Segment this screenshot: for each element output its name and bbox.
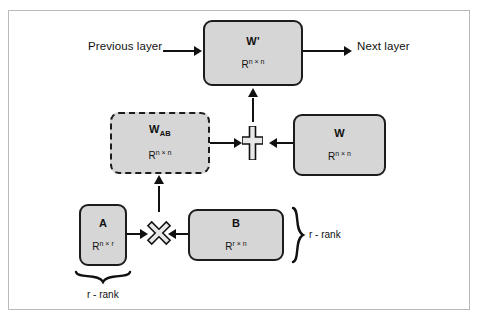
node-a-title: A: [99, 218, 107, 229]
previous-layer-arrowhead-icon: [194, 46, 202, 56]
w-to-plus-arrowhead-icon: [269, 138, 277, 148]
multiply-to-w-ab-arrowhead-icon: [154, 175, 164, 184]
figure-canvas: Previous layer W' Rn × n Next layer WAB …: [0, 0, 478, 323]
b-to-multiply-arrowhead-icon: [168, 229, 176, 239]
node-w-prime-title: W': [246, 36, 259, 47]
node-a-dims: Rn × r: [92, 240, 113, 252]
rank-brace-right-icon: [290, 206, 306, 264]
node-b[interactable]: B Rr × n: [188, 209, 284, 261]
plus-operator-icon: [242, 126, 263, 160]
next-layer-connector: [303, 50, 345, 52]
node-w-ab-title: WAB: [149, 124, 171, 138]
next-layer-arrowhead-icon: [344, 46, 352, 56]
next-layer-label: Next layer: [357, 40, 410, 52]
plus-to-w-prime-connector: [252, 98, 254, 122]
node-w[interactable]: W Rn × n: [293, 114, 386, 176]
node-w-dims: Rn × n: [328, 150, 351, 162]
node-b-title: B: [232, 218, 240, 229]
previous-layer-label: Previous layer: [88, 40, 162, 52]
rank-label-bottom: r - rank: [87, 289, 119, 300]
node-w-prime-dims: Rn × n: [242, 58, 265, 70]
node-w-prime[interactable]: W' Rn × n: [203, 20, 303, 86]
node-a[interactable]: A Rn × r: [79, 204, 127, 266]
node-w-title: W: [334, 128, 345, 139]
plus-to-w-prime-arrowhead-icon: [248, 88, 258, 97]
node-w-ab[interactable]: WAB Rn × n: [110, 112, 210, 174]
rank-label-right: r - rank: [309, 229, 341, 240]
previous-layer-connector: [163, 50, 195, 52]
node-b-dims: Rr × n: [225, 240, 246, 252]
multiply-to-w-ab-connector: [158, 186, 160, 212]
w-ab-to-plus-arrowhead-icon: [234, 138, 242, 148]
node-w-ab-dims: Rn × n: [149, 149, 172, 161]
rank-brace-bottom-icon: [74, 269, 132, 285]
w-ab-to-plus-connector: [210, 142, 235, 144]
